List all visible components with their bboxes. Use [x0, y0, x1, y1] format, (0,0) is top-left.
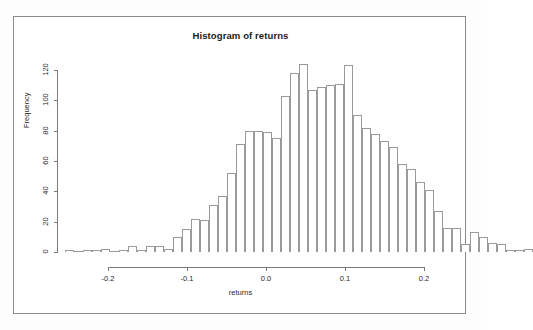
y-axis-tick-label: 60	[41, 150, 50, 170]
y-axis-tick	[54, 131, 58, 132]
histogram-bar	[92, 250, 101, 252]
histogram-bar	[362, 128, 371, 252]
histogram-bar	[434, 211, 443, 252]
x-axis-tick	[187, 267, 188, 271]
histogram-bar	[353, 115, 362, 252]
x-axis-tick-label: 0.1	[330, 274, 360, 283]
x-axis-tick	[424, 267, 425, 271]
histogram-bar	[164, 249, 173, 252]
histogram-bar	[335, 84, 344, 252]
histogram-bar	[380, 141, 389, 252]
x-axis-tick-label: -0.1	[172, 274, 202, 283]
histogram-bar	[470, 232, 479, 252]
x-axis-tick-label: 0.2	[409, 274, 439, 283]
y-axis-tick	[54, 252, 58, 253]
histogram-bar	[425, 190, 434, 252]
histogram-bar	[524, 249, 533, 252]
histogram-bar	[83, 250, 92, 252]
histogram-bar	[308, 90, 317, 252]
y-axis-tick	[54, 70, 58, 71]
x-axis-tick	[108, 267, 109, 271]
y-axis-tick	[54, 161, 58, 162]
y-axis-tick	[54, 100, 58, 101]
histogram-bar	[371, 134, 380, 252]
histogram-bar	[344, 65, 353, 252]
y-axis-tick-label: 0	[41, 242, 50, 262]
histogram-bar	[65, 250, 74, 252]
y-axis-tick-label: 120	[41, 59, 50, 79]
histogram-bar	[146, 246, 155, 252]
histogram-bar	[254, 131, 263, 252]
histogram-bar	[461, 244, 470, 252]
histogram-bar	[137, 250, 146, 252]
histogram-bar	[452, 228, 461, 252]
histogram-bar	[263, 132, 272, 252]
histogram-bar	[443, 228, 452, 252]
histogram-bar	[128, 246, 137, 252]
histogram-bar	[407, 169, 416, 252]
histogram-bar	[506, 250, 515, 252]
histogram-bar	[182, 229, 191, 252]
histogram-bar	[227, 173, 236, 252]
x-axis-tick-label: -0.2	[93, 274, 123, 283]
y-axis-tick	[54, 222, 58, 223]
histogram-bar	[515, 250, 524, 252]
histogram-bar	[299, 64, 308, 252]
histogram-bar	[326, 85, 335, 252]
y-axis-tick-label: 40	[41, 181, 50, 201]
histogram-bar	[398, 164, 407, 252]
y-axis-tick-label: 100	[41, 90, 50, 110]
histogram-bar	[173, 237, 182, 252]
x-axis-tick	[266, 267, 267, 271]
histogram-bar	[245, 131, 254, 252]
y-axis-tick-label: 20	[41, 211, 50, 231]
y-axis-tick	[54, 191, 58, 192]
histogram-bar	[290, 73, 299, 252]
histogram-bar	[281, 96, 290, 252]
histogram-bar	[236, 144, 245, 252]
histogram-bar	[101, 249, 110, 252]
histogram-bar	[155, 246, 164, 252]
histogram-bar	[497, 244, 506, 252]
histogram-bar	[317, 87, 326, 252]
histogram-bar	[416, 182, 425, 252]
x-axis-tick	[345, 267, 346, 271]
histogram-bar	[218, 196, 227, 252]
histogram-bar	[191, 219, 200, 252]
histogram-bar	[74, 251, 83, 252]
x-axis-tick-label: 0.0	[251, 274, 281, 283]
plot-title: Histogram of returns	[0, 30, 481, 41]
histogram-bar	[200, 220, 209, 252]
y-axis-tick-label: 80	[41, 120, 50, 140]
histogram-bar	[209, 205, 218, 252]
histogram-bar	[110, 251, 119, 252]
histogram-bar	[119, 250, 128, 252]
histogram-bar	[479, 237, 488, 252]
x-axis-label: returns	[0, 288, 481, 297]
histogram-bar	[389, 147, 398, 252]
y-axis-label: Frequency	[22, 93, 31, 128]
histogram-bar	[488, 243, 497, 252]
histogram-bar	[272, 138, 281, 252]
